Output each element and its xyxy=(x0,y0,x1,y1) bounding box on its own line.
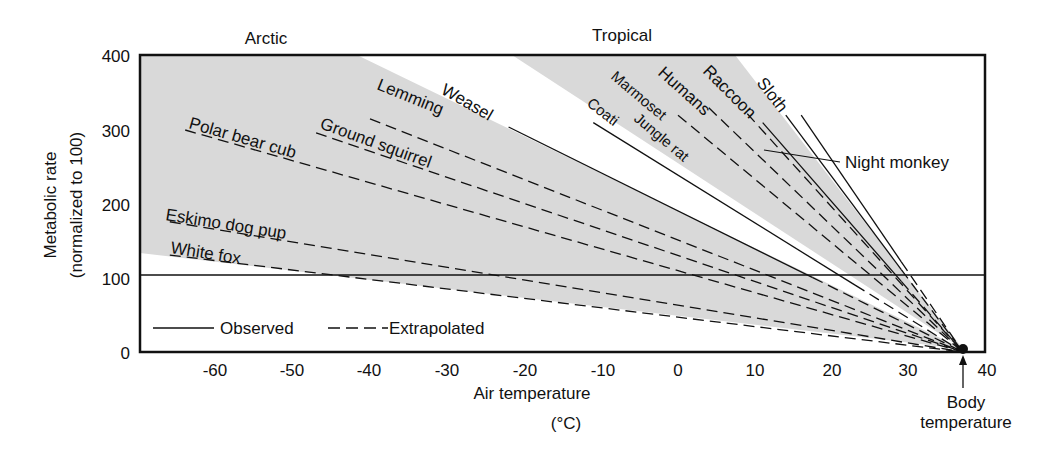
x-tick: -40 xyxy=(357,361,382,380)
x-axis-unit: (°C) xyxy=(551,414,581,433)
x-tick: 10 xyxy=(746,361,765,380)
region-label-tropical: Tropical xyxy=(592,26,652,45)
x-tick: 40 xyxy=(978,361,997,380)
legend: Observed Extrapolated xyxy=(153,319,484,338)
x-tick: -30 xyxy=(435,361,460,380)
y-tick-200: 200 xyxy=(102,196,130,215)
y-axis-subtitle: (normalized to 100) xyxy=(67,132,86,278)
x-tick: 20 xyxy=(823,361,842,380)
label-night-monkey: Night monkey xyxy=(845,153,949,172)
arrow-head-icon xyxy=(959,355,967,365)
x-axis-title: Air temperature xyxy=(473,384,590,403)
y-axis-title: Metabolic rate xyxy=(41,152,60,259)
body-temperature-label-2: temperature xyxy=(920,413,1012,432)
metabolic-rate-chart: 400 300 200 100 0 -60 -50 -40 -30 -20 -1… xyxy=(0,0,1063,457)
x-tick: 30 xyxy=(899,361,918,380)
x-tick: -60 xyxy=(203,361,228,380)
y-tick-300: 300 xyxy=(102,122,130,141)
y-axis-ticks: 400 300 200 100 0 xyxy=(102,47,130,363)
x-tick: -10 xyxy=(591,361,616,380)
y-tick-100: 100 xyxy=(102,270,130,289)
x-tick: -50 xyxy=(280,361,305,380)
y-tick-0: 0 xyxy=(121,344,130,363)
legend-extrapolated-label: Extrapolated xyxy=(389,319,484,338)
legend-observed-label: Observed xyxy=(220,319,294,338)
x-tick: -20 xyxy=(513,361,538,380)
x-tick: 0 xyxy=(673,361,682,380)
y-tick-400: 400 xyxy=(102,47,130,66)
body-temperature-dot xyxy=(958,344,968,354)
body-temperature-label: Body xyxy=(947,393,986,412)
x-axis-ticks: -60 -50 -40 -30 -20 -10 0 10 20 30 40 xyxy=(203,361,997,380)
region-label-arctic: Arctic xyxy=(245,29,288,48)
